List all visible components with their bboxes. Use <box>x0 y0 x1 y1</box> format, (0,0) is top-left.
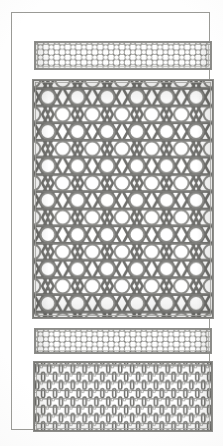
panel-band-mid <box>34 328 212 354</box>
bottom-panel-pattern <box>34 362 212 431</box>
panel-bottom <box>33 361 213 432</box>
panel-band-top <box>34 41 212 70</box>
outer-rule-frame <box>11 12 210 430</box>
main-panel-pattern <box>33 80 213 318</box>
band-top-pattern <box>35 42 211 69</box>
ornamental-plate <box>0 0 223 446</box>
panel-main <box>32 79 214 319</box>
band-mid-pattern <box>35 329 211 353</box>
